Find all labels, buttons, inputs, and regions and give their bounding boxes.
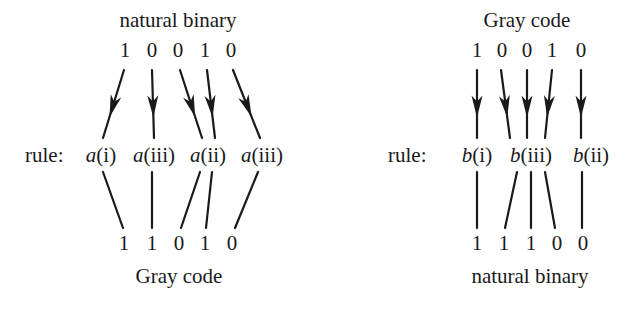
rule-argument: (iii) xyxy=(252,143,284,167)
rule-prefix: rule: xyxy=(388,143,426,168)
arrow xyxy=(522,70,533,138)
rule-function: a xyxy=(241,143,252,167)
bottom-digit: 1 xyxy=(472,231,483,256)
arrow xyxy=(103,70,124,138)
bottom-title: Gray code xyxy=(136,264,223,289)
rule-function: b xyxy=(573,143,584,167)
rule-label: a(i) xyxy=(86,143,116,168)
rule-argument: (iii) xyxy=(144,143,176,167)
arrow xyxy=(205,70,216,138)
connector-line xyxy=(235,172,258,228)
arrow xyxy=(233,70,260,138)
bottom-digit: 0 xyxy=(227,231,238,256)
connector-line xyxy=(545,172,555,228)
bottom-digit: 0 xyxy=(578,231,589,256)
rule-label: a(iii) xyxy=(241,143,283,168)
rule-argument: (i) xyxy=(472,143,492,167)
bottom-digit: 1 xyxy=(499,231,510,256)
bottom-digit: 1 xyxy=(526,231,537,256)
connector-line xyxy=(206,172,212,228)
rule-label: a(ii) xyxy=(190,143,226,168)
rule-function: b xyxy=(462,143,473,167)
rule-function: b xyxy=(510,143,521,167)
arrow xyxy=(472,70,483,138)
bottom-digit: 1 xyxy=(119,231,130,256)
rule-function: a xyxy=(133,143,144,167)
rule-argument: (ii) xyxy=(583,143,609,167)
connector-line xyxy=(103,172,123,228)
connector-line xyxy=(181,172,200,228)
rule-argument: (i) xyxy=(96,143,116,167)
arrow xyxy=(499,70,510,138)
arrow xyxy=(576,70,587,138)
connector-line xyxy=(505,172,517,228)
bottom-title: natural binary xyxy=(471,264,588,289)
bottom-digit: 1 xyxy=(200,231,211,256)
rule-argument: (iii) xyxy=(521,143,553,167)
binary-to-gray-diagram: natural binary 1 0 0 1 0 rule: xyxy=(0,0,330,311)
arrow xyxy=(180,70,202,138)
rule-label: a(iii) xyxy=(133,143,175,168)
bottom-digit: 0 xyxy=(552,231,563,256)
gray-to-binary-diagram: Gray code 1 0 0 1 0 rule: b(i) xyxy=(370,0,634,311)
arrow xyxy=(544,70,555,138)
rule-label: b(i) xyxy=(462,143,492,168)
bottom-digit: 0 xyxy=(174,231,185,256)
rule-argument: (ii) xyxy=(200,143,226,167)
rule-label: b(ii) xyxy=(573,143,609,168)
arrow xyxy=(147,70,158,138)
rule-function: a xyxy=(86,143,97,167)
rule-prefix: rule: xyxy=(25,143,63,168)
rule-label: b(iii) xyxy=(510,143,552,168)
bottom-digit: 1 xyxy=(147,231,158,256)
rule-function: a xyxy=(190,143,201,167)
